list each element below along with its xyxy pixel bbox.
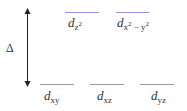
label-dxy: dxy <box>44 89 60 105</box>
delta-label: Δ <box>6 42 14 54</box>
level-dz2-line <box>65 12 99 13</box>
label-dxz: dxz <box>97 89 112 105</box>
level-dx2y2-line <box>116 12 149 13</box>
level-dxy-line <box>40 84 74 85</box>
level-dxz-line <box>90 84 124 85</box>
energy-gap-arrow-icon <box>23 8 32 87</box>
label-dyz: dyz <box>151 89 166 105</box>
level-dyz-line <box>140 84 174 85</box>
label-dz2: dz2 <box>68 16 82 32</box>
label-dx2-y2: dx2 − y2 <box>117 16 149 32</box>
